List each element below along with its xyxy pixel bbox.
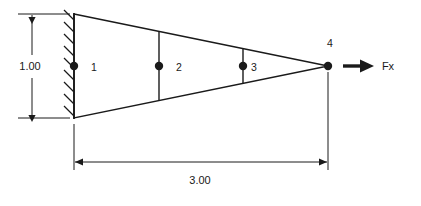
length-arrow-head-left-icon (75, 159, 83, 166)
element-label-3: 3 (251, 61, 257, 73)
tapered-bar-outline (74, 14, 328, 118)
element-labels: 1 2 3 (91, 61, 257, 73)
length-dimension-group: 3.00 (74, 72, 328, 186)
height-arrow-head-top-icon (28, 17, 35, 24)
force-label: Fx (382, 60, 395, 72)
height-dimension-value: 1.00 (19, 60, 40, 72)
height-dimension-group: 1.00 (18, 14, 70, 122)
node-1-dot (70, 62, 78, 70)
element-label-2: 2 (176, 61, 182, 73)
bar-body-path (74, 14, 328, 118)
tapered-bar-diagram: 1 2 3 4 Fx 1.00 (0, 0, 421, 206)
force-arrow-head-icon (360, 60, 374, 73)
node-4-dot (324, 62, 332, 70)
node-label-4: 4 (327, 37, 333, 49)
node-dots (70, 62, 332, 70)
node-3-dot (239, 62, 247, 70)
diagram-canvas: 1 2 3 4 Fx 1.00 (0, 0, 421, 206)
length-arrow-head-right-icon (319, 159, 327, 166)
node-2-dot (155, 62, 163, 70)
element-dividers (159, 31, 243, 100)
length-dimension-value: 3.00 (189, 174, 210, 186)
force-arrow-fx: Fx (343, 60, 395, 73)
element-label-1: 1 (91, 61, 97, 73)
